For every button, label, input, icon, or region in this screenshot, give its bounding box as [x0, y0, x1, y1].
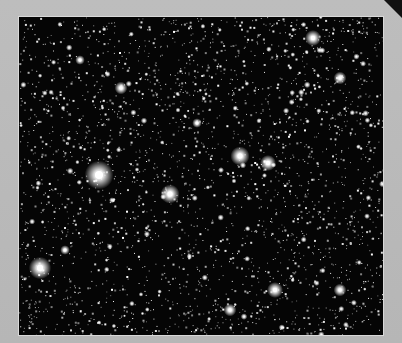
star-field-canvas: [19, 17, 383, 335]
edge-label: CLETED: [1, 20, 11, 340]
card-corner-tab: [384, 0, 402, 18]
faint-stars: [19, 17, 383, 335]
star-field-photo: [19, 17, 383, 335]
photo-card: CLETED: [0, 0, 402, 343]
